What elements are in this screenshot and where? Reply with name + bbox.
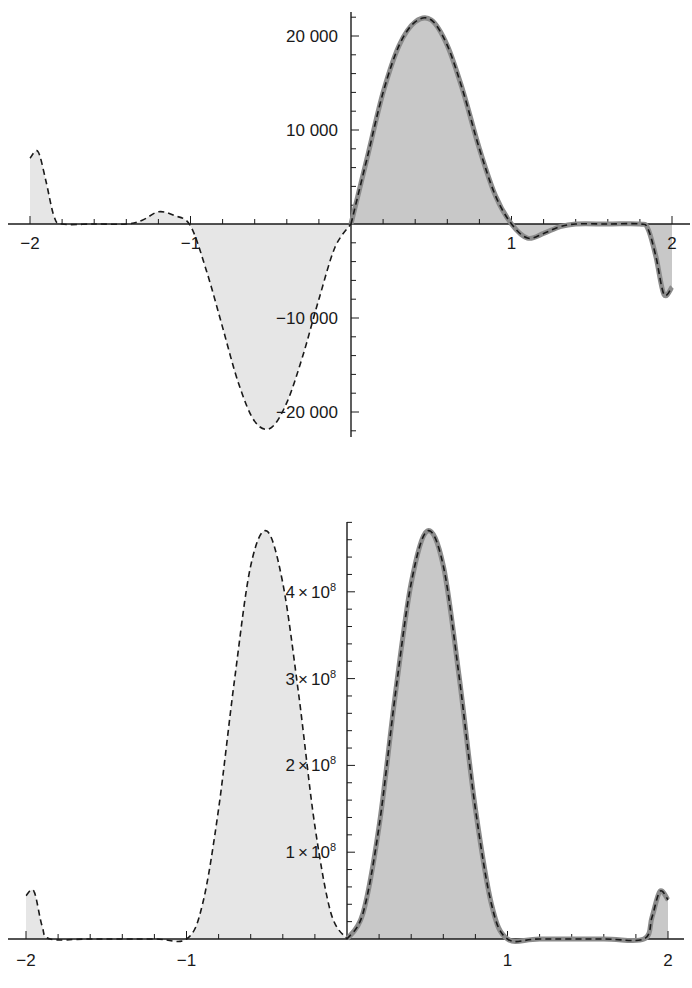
- top-chart: −2 −1 1 2 20 000 10 000 −10 000 −20 000: [8, 12, 690, 437]
- bottom-y-tick-label: 2×108: [286, 754, 336, 775]
- bottom-chart: −2 −1 1 2 1×108 2×108 3×108 4×108: [8, 522, 684, 970]
- bottom-x-tick-label: −2: [16, 951, 35, 970]
- top-x-tick-label: 2: [667, 234, 676, 253]
- top-x-tick-label: −1: [181, 234, 200, 253]
- top-y-tick-label: 20 000: [286, 27, 338, 46]
- bottom-chart-axes: [8, 522, 684, 939]
- bottom-chart-labels: −2 −1 1 2 1×108 2×108 3×108 4×108: [16, 581, 672, 970]
- top-x-tick-label: 1: [507, 234, 516, 253]
- bottom-series-dark-fill: [347, 531, 668, 942]
- bottom-x-tick-label: −1: [177, 951, 196, 970]
- top-series-light-fill: [30, 151, 351, 430]
- top-x-tick-label: −2: [20, 234, 39, 253]
- top-y-tick-label: 10 000: [286, 121, 338, 140]
- bottom-y-tick-label: 4×108: [286, 581, 336, 602]
- bottom-x-tick-label: 2: [663, 951, 672, 970]
- bottom-x-tick-label: 1: [503, 951, 512, 970]
- top-series-dark-fill: [351, 18, 672, 296]
- plot-figure: −2 −1 1 2 20 000 10 000 −10 000 −20 000: [0, 0, 692, 988]
- bottom-y-ticks: [347, 522, 355, 921]
- bottom-y-tick-label: 1×108: [286, 841, 336, 862]
- top-y-tick-label: −20 000: [276, 403, 338, 422]
- bottom-y-tick-label: 3×108: [286, 668, 336, 689]
- top-y-tick-label: −10 000: [276, 309, 338, 328]
